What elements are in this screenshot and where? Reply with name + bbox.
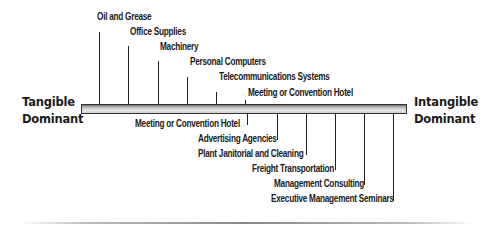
upper-label-office-supplies: Office Supplies [130,26,186,37]
right-end-label: Intangible Dominant [414,94,478,128]
right-end-line1: Intangible [414,94,478,111]
lower-label-advertising-agencies: Advertising Agencies [198,133,277,144]
right-end-line2: Dominant [414,111,478,128]
upper-label-oil-and-grease: Oil and Grease [97,11,151,22]
upper-label-meeting-convention-hotel: Meeting or Convention Hotel [248,87,353,98]
upper-label-machinery: Machinery [160,41,198,52]
lower-tick-1 [247,114,248,125]
lower-label-management-consulting: Management Consulting [274,178,364,189]
bottom-divider [20,222,475,224]
lower-tick-4 [335,114,336,170]
spectrum-bar [81,104,407,114]
lower-label-executive-management-seminars: Executive Management Seminars [271,193,394,204]
lower-label-meeting-convention-hotel: Meeting or Convention Hotel [135,118,240,129]
lower-tick-3 [306,114,307,155]
upper-tick-3 [158,61,159,104]
upper-label-telecommunications-systems: Telecommunications Systems [219,71,330,82]
left-end-line2: Dominant [22,111,83,128]
upper-tick-2 [128,46,129,104]
left-end-line1: Tangible [22,94,83,111]
upper-tick-5 [216,92,217,104]
upper-tick-4 [187,77,188,104]
tangibility-spectrum-diagram: Tangible Dominant Intangible Dominant Oi… [0,0,491,225]
upper-label-personal-computers: Personal Computers [190,56,266,67]
upper-tick-1 [99,32,100,104]
lower-tick-2 [277,114,278,140]
lower-tick-5 [364,114,365,185]
lower-tick-6 [393,114,394,201]
lower-label-freight-transportation: Freight Transportation [252,163,334,174]
lower-label-plant-janitorial-cleaning: Plant Janitorial and Cleaning [198,148,303,159]
left-end-label: Tangible Dominant [22,94,83,128]
